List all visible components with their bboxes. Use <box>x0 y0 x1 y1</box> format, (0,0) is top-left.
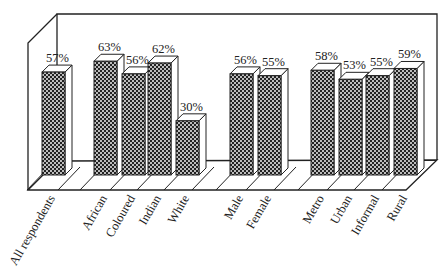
value-label: 58% <box>315 49 338 63</box>
bar <box>176 114 206 175</box>
category-label: White <box>165 192 193 226</box>
bars-group <box>42 54 424 175</box>
bar <box>394 61 424 175</box>
bar <box>311 63 341 175</box>
bar <box>366 69 396 175</box>
bar-chart: 57%63%56%62%30%56%55%58%53%55%59% All re… <box>0 0 444 276</box>
category-label: Metro <box>300 193 327 226</box>
value-label: 55% <box>370 55 393 69</box>
value-label: 55% <box>262 55 285 69</box>
value-label: 62% <box>152 42 175 56</box>
bar <box>148 56 178 175</box>
value-label: 57% <box>46 51 69 65</box>
category-label: Female <box>244 192 275 231</box>
bar <box>230 67 260 175</box>
bar <box>339 72 369 175</box>
value-label: 63% <box>98 40 121 54</box>
category-labels: All respondentsAfricanColouredIndianWhit… <box>7 192 411 268</box>
bar <box>258 69 288 175</box>
value-label: 53% <box>343 58 366 72</box>
value-label: 56% <box>126 53 149 67</box>
value-label: 59% <box>398 47 421 61</box>
category-label: Male <box>221 192 246 222</box>
bar <box>94 54 124 175</box>
bar <box>42 65 72 175</box>
category-label: Urban <box>327 192 355 227</box>
category-label: Indian <box>136 192 164 227</box>
category-label: Rural <box>384 192 410 224</box>
value-label: 30% <box>180 100 203 114</box>
category-label: All respondents <box>7 192 59 267</box>
value-label: 56% <box>234 53 257 67</box>
